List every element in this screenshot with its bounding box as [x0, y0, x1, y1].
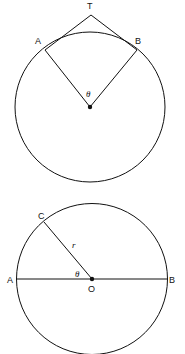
label-C: C: [38, 211, 45, 221]
radius-OC: [44, 222, 92, 279]
label-O: O: [88, 284, 95, 294]
label-B: B: [169, 275, 175, 285]
label-r: r: [72, 240, 76, 250]
figure-tangent-circle: T A B θ: [15, 1, 165, 182]
diagram-canvas: T A B θ C r θ A O B: [0, 0, 185, 354]
label-A: A: [7, 275, 13, 285]
figure-diameter-circle: C r θ A O B: [7, 204, 175, 354]
center-point-O: [90, 277, 94, 281]
label-T: T: [87, 1, 93, 11]
label-B: B: [135, 36, 141, 46]
label-theta: θ: [75, 269, 80, 279]
label-theta: θ: [86, 89, 91, 99]
label-A: A: [35, 36, 41, 46]
center-point: [88, 105, 92, 109]
radii: [45, 50, 137, 107]
